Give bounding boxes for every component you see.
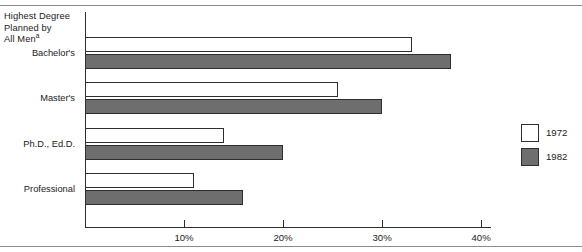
category-axis-title-line1: Highest Degree xyxy=(4,11,70,21)
x-axis-tick xyxy=(283,220,284,228)
bottom-rule xyxy=(0,246,582,247)
category-axis-title-line2: Planned by xyxy=(4,23,52,33)
x-axis-tick-label: 10% xyxy=(174,232,193,243)
bar-professional-1972 xyxy=(85,173,194,188)
top-rule xyxy=(0,5,582,6)
bar-ph-d-ed-d-1972 xyxy=(85,128,224,143)
gray-square-swatch xyxy=(521,148,539,166)
x-axis-tick xyxy=(184,220,185,228)
x-axis-line xyxy=(85,227,491,228)
category-axis-title-line3: All Men xyxy=(4,34,36,44)
bar-bachelor-s-1972 xyxy=(85,37,412,52)
bar-ph-d-ed-d-1982 xyxy=(85,145,283,160)
legend-row: 1982 xyxy=(521,146,581,170)
category-label-ph-d-ed-d: Ph.D., Ed.D. xyxy=(0,139,75,150)
chart-legend: 19721982 xyxy=(521,122,581,170)
category-label-bachelor-s: Bachelor's xyxy=(0,48,75,59)
white-square-swatch xyxy=(521,124,539,142)
bar-bachelor-s-1982 xyxy=(85,54,451,69)
x-axis-tick xyxy=(382,220,383,228)
legend-label-1972: 1972 xyxy=(546,127,567,138)
plot-area: 10%20%30%40% xyxy=(85,12,495,229)
bar-chart-figure: Highest Degree Planned by All Mena Bache… xyxy=(0,0,582,252)
x-axis-tick-label: 30% xyxy=(372,232,391,243)
legend-row: 1972 xyxy=(521,122,581,146)
bar-professional-1982 xyxy=(85,190,243,205)
category-axis-labels: Highest Degree Planned by All Mena Bache… xyxy=(0,0,80,252)
category-label-professional: Professional xyxy=(0,184,75,195)
x-axis-tick xyxy=(481,220,482,228)
category-axis-footnote-marker: a xyxy=(36,32,40,39)
legend-label-1982: 1982 xyxy=(546,151,567,162)
x-axis-tick-label: 20% xyxy=(273,232,292,243)
category-axis-title: Highest Degree Planned by All Mena xyxy=(4,11,80,46)
bar-master-s-1982 xyxy=(85,99,382,114)
bar-master-s-1972 xyxy=(85,82,338,97)
x-axis-tick-label: 40% xyxy=(471,232,490,243)
category-label-master-s: Master's xyxy=(0,93,75,104)
